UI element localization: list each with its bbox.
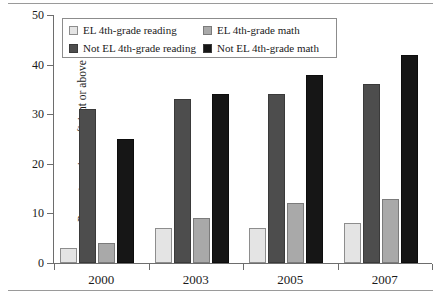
x-tick-end [432,264,433,270]
legend-label-el-math: EL 4th-grade math [217,25,300,36]
y-tick-0 [47,263,53,264]
top-divider-rule [8,3,433,4]
bar-notel-reading-2005 [268,94,285,263]
y-tick-label-20: 20 [10,158,44,170]
legend-swatch-notel-math [203,44,212,53]
bar-el-math-2003 [193,218,210,263]
x-tick-2000 [54,264,55,270]
bottom-divider-rule [8,290,433,291]
bar-el-math-2005 [287,203,304,263]
y-tick-label-10: 10 [10,207,44,219]
bar-notel-reading-2007 [363,84,380,263]
legend-swatch-el-math [203,26,212,35]
y-tick-label-text: 30 [16,108,44,120]
y-tick-label-text: 10 [16,207,44,219]
bar-notel-math-2000 [117,139,134,263]
bar-el-reading-2005 [249,228,266,263]
legend-label-notel-math: Not EL 4th-grade math [217,43,319,54]
y-tick-20 [47,164,53,165]
y-tick-40 [47,65,53,66]
x-axis-label-2003: 2003 [166,272,226,288]
y-tick-label-0: 0 [10,257,44,269]
legend-item-el-reading: EL 4th-grade reading [69,21,177,39]
x-axis-label-2007: 2007 [355,272,415,288]
y-tick-label-text: 50 [16,9,44,21]
legend-swatch-notel-reading [69,44,78,53]
y-tick-label-30: 30 [10,108,44,120]
bar-el-reading-2000 [60,248,77,263]
y-tick-label-50: 50 [10,9,44,21]
bar-el-reading-2007 [344,223,361,263]
legend-item-notel-math: Not EL 4th-grade math [203,39,319,57]
y-tick-label-text: 20 [16,158,44,170]
x-tick-2005 [243,264,244,270]
x-axis-label-2000: 2000 [71,272,131,288]
legend-swatch-el-reading [69,26,78,35]
legend-row-2: Not EL 4th-grade reading Not EL 4th-grad… [63,39,336,57]
y-tick-10 [47,213,53,214]
bar-el-math-2007 [382,199,399,263]
x-axis-label-2005: 2005 [260,272,320,288]
legend-label-notel-reading: Not EL 4th-grade reading [83,43,196,54]
bar-notel-math-2003 [212,94,229,263]
x-tick-2003 [149,264,150,270]
legend-row-1: EL 4th-grade reading EL 4th-grade math [63,21,336,39]
bar-notel-math-2007 [401,55,418,263]
legend-label-el-reading: EL 4th-grade reading [83,25,177,36]
y-tick-50 [47,15,53,16]
bar-notel-math-2005 [306,75,323,263]
bar-el-reading-2003 [155,228,172,263]
figure-container: Percent scoring proficient or above 0102… [0,0,437,302]
bar-notel-reading-2000 [79,109,96,263]
y-tick-label-text: 0 [16,257,44,269]
legend-item-notel-reading: Not EL 4th-grade reading [69,39,196,57]
y-tick-label-text: 40 [16,59,44,71]
x-tick-2007 [338,264,339,270]
y-tick-30 [47,114,53,115]
chart-legend: EL 4th-grade reading EL 4th-grade math N… [62,18,337,58]
y-tick-label-40: 40 [10,59,44,71]
bar-notel-reading-2003 [174,99,191,263]
bar-el-math-2000 [98,243,115,263]
legend-item-el-math: EL 4th-grade math [203,21,300,39]
